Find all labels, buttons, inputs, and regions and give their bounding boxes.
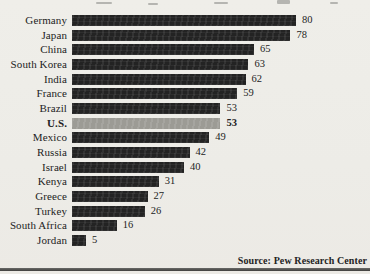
category-label: Kenya xyxy=(0,176,67,187)
bar-row: Russia42 xyxy=(0,145,370,160)
bar xyxy=(72,147,190,158)
bar xyxy=(72,44,254,55)
bar xyxy=(72,220,117,231)
bar-row: Mexico49 xyxy=(0,130,370,145)
bar-row: India62 xyxy=(0,72,370,87)
value-label: 40 xyxy=(190,162,201,173)
cropped-text-remnant xyxy=(0,0,370,5)
value-label: 53 xyxy=(226,118,237,129)
value-label: 27 xyxy=(154,191,165,202)
value-label: 53 xyxy=(226,103,237,114)
value-label: 31 xyxy=(165,176,176,187)
category-label: South Africa xyxy=(0,220,67,231)
value-label: 42 xyxy=(196,147,207,158)
bar-row: South Korea63 xyxy=(0,57,370,72)
bar-row: Israel40 xyxy=(0,160,370,175)
value-label: 62 xyxy=(252,74,263,85)
bar-row: South Africa16 xyxy=(0,218,370,233)
value-label: 26 xyxy=(151,206,162,217)
category-label: Jordan xyxy=(0,235,67,246)
bar-row: Germany80 xyxy=(0,13,370,28)
bar xyxy=(72,132,209,143)
category-label: Israel xyxy=(0,162,67,173)
value-label: 65 xyxy=(260,44,271,55)
category-label: Germany xyxy=(0,15,67,26)
bar-row: Greece27 xyxy=(0,189,370,204)
source-caption: Source: Pew Research Center xyxy=(238,255,367,266)
value-label: 78 xyxy=(296,30,307,41)
bar xyxy=(72,235,86,246)
page-rule xyxy=(0,268,370,271)
bar xyxy=(72,191,148,202)
category-label: China xyxy=(0,44,67,55)
bar xyxy=(72,176,159,187)
bar xyxy=(72,59,248,70)
bar-chart: Germany80Japan78China65South Korea63Indi… xyxy=(0,13,370,248)
category-label: Turkey xyxy=(0,206,67,217)
category-label: Russia xyxy=(0,147,67,158)
value-label: 80 xyxy=(302,15,313,26)
value-label: 63 xyxy=(254,59,265,70)
bar-row: France59 xyxy=(0,86,370,101)
bar xyxy=(72,74,246,85)
scanned-page: Germany80Japan78China65South Korea63Indi… xyxy=(0,0,370,274)
value-label: 16 xyxy=(123,220,134,231)
value-label: 5 xyxy=(92,235,97,246)
category-label: Mexico xyxy=(0,132,67,143)
category-label: Japan xyxy=(0,30,67,41)
bar xyxy=(72,206,145,217)
bar xyxy=(72,103,220,114)
bar xyxy=(72,162,184,173)
bar-row: U.S.53 xyxy=(0,116,370,131)
bar xyxy=(72,30,290,41)
bar-row: China65 xyxy=(0,42,370,57)
value-label: 49 xyxy=(215,132,226,143)
category-label: Greece xyxy=(0,191,67,202)
category-label: Brazil xyxy=(0,103,67,114)
bar xyxy=(72,88,237,99)
bar-row: Kenya31 xyxy=(0,174,370,189)
bar-row: Jordan5 xyxy=(0,233,370,248)
category-label: India xyxy=(0,74,67,85)
bar-row: Japan78 xyxy=(0,28,370,43)
category-label: France xyxy=(0,88,67,99)
category-label: South Korea xyxy=(0,59,67,70)
category-label: U.S. xyxy=(0,118,67,129)
bar xyxy=(72,15,296,26)
value-label: 59 xyxy=(243,88,254,99)
bar-row: Turkey26 xyxy=(0,204,370,219)
bar-row: Brazil53 xyxy=(0,101,370,116)
bar xyxy=(72,118,220,129)
